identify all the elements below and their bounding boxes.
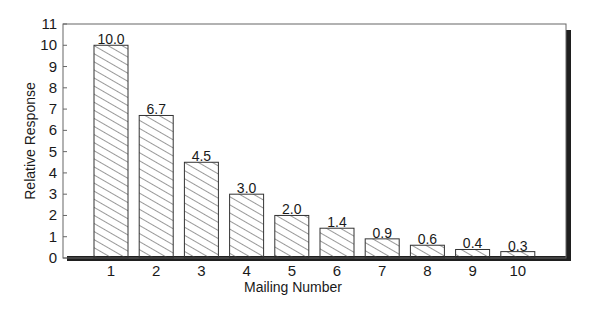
y-tick-label: 11 xyxy=(41,15,57,32)
x-tick-label: 7 xyxy=(378,262,386,279)
bar xyxy=(139,115,173,258)
y-tick-label: 6 xyxy=(49,121,57,138)
y-tick-label: 10 xyxy=(40,36,57,53)
y-tick-label: 3 xyxy=(49,185,57,202)
x-tick-label: 6 xyxy=(333,262,341,279)
bar-value-label: 6.7 xyxy=(146,101,166,117)
frame-shadow-right xyxy=(566,30,571,261)
bar xyxy=(365,239,399,258)
bar-chart: 01234567891011 10.06.74.53.02.01.40.90.6… xyxy=(0,0,589,309)
x-tick-label: 4 xyxy=(242,262,250,279)
y-tick-label: 8 xyxy=(49,79,57,96)
y-tick-label: 4 xyxy=(49,164,57,181)
x-tick-label: 2 xyxy=(152,262,160,279)
bar xyxy=(184,162,218,258)
bar-value-label: 0.3 xyxy=(508,238,528,254)
bar xyxy=(275,215,309,258)
x-axis: 12345678910 xyxy=(107,262,526,279)
y-tick-label: 5 xyxy=(49,143,57,160)
y-tick-label: 7 xyxy=(49,100,57,117)
y-tick-label: 0 xyxy=(49,249,57,266)
x-tick-label: 5 xyxy=(288,262,296,279)
y-tick-label: 1 xyxy=(49,228,57,245)
bar xyxy=(94,45,128,258)
bar-value-label: 2.0 xyxy=(282,201,302,217)
plot-frame xyxy=(63,24,566,258)
bar-value-label: 0.9 xyxy=(372,225,392,241)
bar-value-label: 3.0 xyxy=(237,180,257,196)
bar xyxy=(320,228,354,258)
bars: 10.06.74.53.02.01.40.90.60.40.3 xyxy=(94,31,535,258)
x-tick-label: 1 xyxy=(107,262,115,279)
x-tick-label: 9 xyxy=(468,262,476,279)
y-tick-label: 2 xyxy=(49,206,57,223)
bar-value-label: 1.4 xyxy=(327,214,347,230)
x-tick-label: 10 xyxy=(509,262,526,279)
x-tick-label: 3 xyxy=(197,262,205,279)
bar-value-label: 4.5 xyxy=(192,148,212,164)
y-tick-label: 9 xyxy=(49,58,57,75)
bar-value-label: 10.0 xyxy=(97,31,124,47)
bar xyxy=(230,194,264,258)
bar-value-label: 0.4 xyxy=(463,235,483,251)
y-axis-title: Relative Response xyxy=(22,82,38,200)
x-axis-title: Mailing Number xyxy=(244,279,342,295)
bar-value-label: 0.6 xyxy=(418,231,438,247)
x-tick-label: 8 xyxy=(423,262,431,279)
